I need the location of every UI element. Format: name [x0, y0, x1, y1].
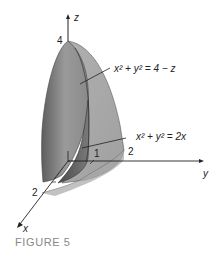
x-axis-label: x [23, 224, 28, 234]
figure-canvas [0, 0, 218, 259]
y-tick-1: 1 [94, 149, 100, 159]
z-axis-label: z [74, 13, 79, 23]
figure-caption: FIGURE 5 [15, 236, 71, 248]
cylinder-equation: x² + y² = 2x [136, 132, 186, 142]
z-tick-4: 4 [57, 36, 63, 46]
z-axis [66, 14, 70, 41]
paraboloid-equation: x² + y² = 4 − z [114, 64, 175, 74]
x-tick-2: 2 [32, 188, 38, 198]
y-tick-2: 2 [128, 147, 134, 157]
y-axis-label: y [203, 169, 208, 179]
